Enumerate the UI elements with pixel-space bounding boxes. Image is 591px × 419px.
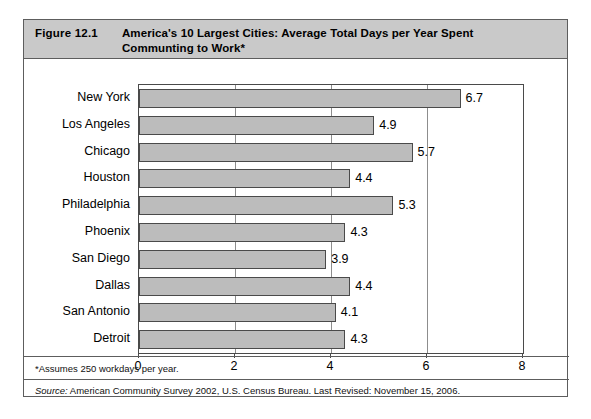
figure-title: America's 10 Largest Cities: Average Tot… — [122, 26, 522, 55]
bar-los-angeles — [139, 116, 374, 135]
bar-value-label: 4.4 — [355, 170, 372, 187]
figure-number: Figure 12.1 — [35, 26, 98, 39]
bar-san-diego — [139, 250, 326, 269]
source-text: Source: American Community Survey 2002, … — [35, 385, 460, 396]
x-tick-label-6: 6 — [423, 359, 430, 373]
figure-frame: Figure 12.1 America's 10 Largest Cities:… — [23, 19, 568, 397]
figure-title-band: Figure 12.1 America's 10 Largest Cities:… — [24, 20, 567, 59]
bar-value-label: 3.9 — [331, 251, 348, 268]
bar-row: 5.7 — [139, 143, 523, 162]
plot-area: 6.74.95.74.45.34.33.94.44.14.3 — [138, 84, 524, 354]
bar-row: 4.4 — [139, 277, 523, 296]
bar-value-label: 4.1 — [341, 304, 358, 321]
bar-detroit — [139, 330, 345, 349]
category-label-chicago: Chicago — [28, 142, 138, 161]
bar-row: 4.3 — [139, 330, 523, 349]
category-label-philadelphia: Philadelphia — [28, 195, 138, 214]
category-label-new-york: New York — [28, 88, 138, 107]
bar-phoenix — [139, 223, 345, 242]
category-label-phoenix: Phoenix — [28, 222, 138, 241]
bar-row: 4.9 — [139, 116, 523, 135]
bar-philadelphia — [139, 196, 393, 215]
bar-dallas — [139, 277, 350, 296]
x-tick-label-8: 8 — [519, 359, 526, 373]
source-label: Source: — [35, 385, 68, 396]
category-label-san-antonio: San Antonio — [28, 302, 138, 321]
chart-area: New YorkLos AngelesChicagoHoustonPhilade… — [24, 59, 569, 356]
x-tick-label-2: 2 — [231, 359, 238, 373]
source-detail: American Community Survey 2002, U.S. Cen… — [68, 385, 460, 396]
category-label-san-diego: San Diego — [28, 249, 138, 268]
bar-houston — [139, 169, 350, 188]
bar-row: 4.3 — [139, 223, 523, 242]
footnote-divider — [24, 356, 569, 357]
category-axis-labels: New YorkLos AngelesChicagoHoustonPhilade… — [24, 84, 138, 352]
footnote-text: *Assumes 250 workdays per year. — [35, 363, 179, 374]
bar-row: 3.9 — [139, 250, 523, 269]
bar-value-label: 4.3 — [350, 224, 367, 241]
bar-value-label: 5.3 — [398, 197, 415, 214]
bar-value-label: 4.9 — [379, 117, 396, 134]
category-label-houston: Houston — [28, 168, 138, 187]
bar-row: 4.4 — [139, 169, 523, 188]
bar-row: 5.3 — [139, 196, 523, 215]
bar-value-label: 6.7 — [466, 90, 483, 107]
bar-chicago — [139, 143, 413, 162]
bar-row: 6.7 — [139, 89, 523, 108]
category-label-los-angeles: Los Angeles — [28, 115, 138, 134]
bar-value-label: 4.3 — [350, 331, 367, 348]
bar-value-label: 5.7 — [418, 144, 435, 161]
bar-row: 4.1 — [139, 303, 523, 322]
x-tick-label-4: 4 — [327, 359, 334, 373]
source-divider — [24, 379, 569, 380]
bar-value-label: 4.4 — [355, 278, 372, 295]
category-label-detroit: Detroit — [28, 329, 138, 348]
bar-san-antonio — [139, 303, 336, 322]
category-label-dallas: Dallas — [28, 276, 138, 295]
bar-new-york — [139, 89, 461, 108]
